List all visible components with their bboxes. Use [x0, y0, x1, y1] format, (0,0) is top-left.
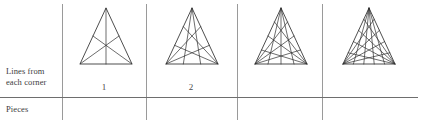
figure-root: Lines fromeach corner Pieces	[0, 0, 426, 124]
triangle-diagram-3	[249, 2, 313, 72]
row-label-lines-from-each-corner: Lines fromeach corner	[6, 66, 47, 87]
triangle-cell-2	[160, 2, 224, 72]
triangle-diagram-4	[337, 2, 401, 72]
triangle-cell-1	[74, 2, 138, 72]
count-label-column-1: 1	[92, 82, 116, 93]
column-divider-3	[322, 4, 323, 120]
triangle-cell-4	[337, 2, 401, 72]
column-divider-1	[146, 4, 147, 120]
column-divider-2	[237, 4, 238, 120]
triangle-diagram-1	[74, 2, 138, 72]
count-label-column-2: 2	[179, 82, 203, 93]
row-label-pieces: Pieces	[6, 104, 28, 115]
row-label-line-1: Lines from	[6, 66, 45, 76]
triangle-diagram-2	[160, 2, 224, 72]
row-label-line-2: each corner	[6, 77, 47, 87]
row-divider	[0, 97, 418, 98]
column-divider-0	[62, 4, 63, 120]
triangle-cell-3	[249, 2, 313, 72]
